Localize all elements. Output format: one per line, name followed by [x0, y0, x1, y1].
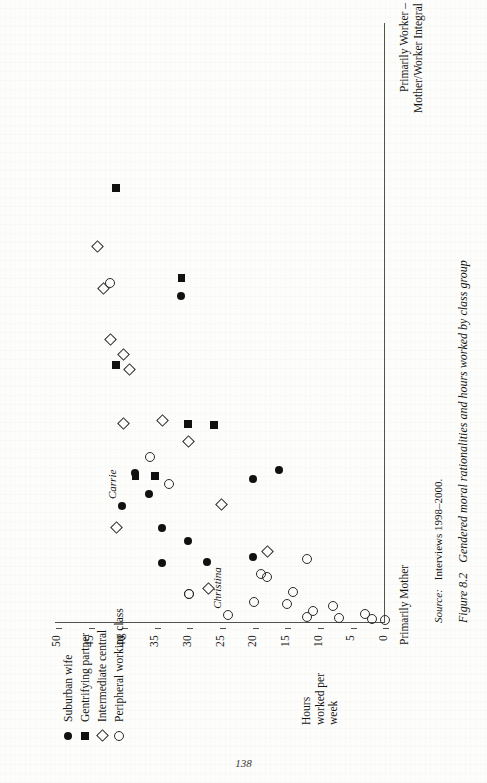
figure-caption: Figure 8.2Gendered moral rationalities a…	[456, 260, 471, 623]
y-axis-tick-label: 30	[181, 635, 193, 661]
y-axis-tick-label: 10	[312, 635, 324, 661]
source-label: Source:	[432, 589, 444, 623]
legend-item-peripheral: Peripheral working class	[111, 608, 127, 743]
legend-label: Gentrifying partner	[79, 633, 91, 722]
marker-gentrifying-partner	[132, 472, 140, 480]
marker-intermediate-central	[215, 499, 228, 512]
legend-label: Suburban wife	[62, 655, 74, 722]
legend-item-intermediate: Intermediate central	[94, 608, 110, 743]
marker-suburban-wife	[275, 466, 283, 474]
marker-intermediate-central-icon	[96, 730, 109, 743]
marker-suburban-wife	[249, 553, 257, 561]
y-axis-tick	[285, 628, 291, 629]
y-axis-tick	[383, 628, 389, 629]
y-axis-tick	[318, 628, 324, 629]
legend-item-gentrifying: Gentrifying partner	[77, 608, 93, 743]
marker-peripheral-working-class	[282, 599, 292, 609]
legend-swatch-open-diamond-icon	[98, 729, 107, 743]
figure-number: Figure 8.2	[456, 573, 470, 623]
y-axis-tick-label: 25	[214, 635, 226, 661]
source-line: Source:Interviews 1998–2000.	[432, 479, 444, 623]
marker-intermediate-central	[110, 521, 123, 534]
marker-intermediate-central	[91, 241, 104, 254]
y-axis-tick-label: 35	[148, 635, 160, 661]
y-axis-tick	[187, 628, 193, 629]
y-axis-tick	[351, 628, 357, 629]
marker-peripheral-working-class	[145, 452, 155, 462]
legend-swatch-open-circle-icon	[114, 729, 124, 743]
marker-peripheral-working-class	[367, 614, 377, 624]
marker-suburban-wife	[158, 524, 166, 532]
marker-suburban-wife	[145, 490, 153, 498]
y-axis-tick	[220, 628, 226, 629]
figure-rotated-frame: 50454035302520151050 Hours worked per we…	[0, 0, 487, 783]
marker-peripheral-working-class	[380, 615, 390, 625]
scanned-page: 50454035302520151050 Hours worked per we…	[0, 0, 487, 783]
y-axis-tick-label: 20	[246, 635, 258, 661]
x-axis-left-label: Primarily Mother	[398, 515, 412, 645]
figure-caption-text: Gendered moral rationalities and hours w…	[456, 260, 470, 562]
marker-suburban-wife	[249, 475, 257, 483]
marker-peripheral-working-class	[262, 572, 272, 582]
marker-gentrifying-partner-icon	[81, 732, 89, 740]
legend: Suburban wifeGentrifying partnerIntermed…	[60, 608, 128, 743]
marker-peripheral-working-class	[302, 612, 312, 622]
legend-swatch-filled-circle-icon	[64, 729, 72, 743]
x-axis-right-label: Primarily Worker – Mother/Worker Integra…	[398, 3, 425, 143]
page-number: 138	[0, 757, 487, 769]
marker-peripheral-working-class-icon	[114, 731, 124, 741]
marker-intermediate-central	[117, 418, 130, 431]
y-axis-tick	[253, 628, 259, 629]
marker-peripheral-working-class	[184, 589, 194, 599]
marker-gentrifying-partner	[112, 361, 120, 369]
marker-intermediate-central	[117, 349, 130, 362]
marker-suburban-wife-icon	[64, 732, 72, 740]
marker-gentrifying-partner	[112, 184, 120, 192]
marker-peripheral-working-class	[105, 278, 115, 288]
marker-suburban-wife	[184, 537, 192, 545]
scatter-plot: 50454035302520151050 Hours worked per we…	[0, 0, 487, 783]
marker-peripheral-working-class	[288, 587, 298, 597]
y-axis-tick	[155, 628, 161, 629]
point-label-christina: Christina	[211, 567, 223, 609]
legend-label: Peripheral working class	[113, 608, 125, 722]
marker-gentrifying-partner	[178, 274, 186, 282]
marker-suburban-wife	[203, 558, 211, 566]
y-axis-tick-label: 15	[279, 635, 291, 661]
marker-intermediate-central	[182, 436, 195, 449]
marker-intermediate-central	[104, 334, 117, 347]
marker-peripheral-working-class	[223, 610, 233, 620]
legend-swatch-filled-square-icon	[81, 729, 89, 743]
y-axis-title: Hours worked per week	[300, 663, 341, 725]
marker-gentrifying-partner	[184, 420, 192, 428]
marker-suburban-wife	[177, 292, 185, 300]
marker-gentrifying-partner	[210, 421, 218, 429]
point-label-carrie: Carrie	[106, 470, 118, 499]
legend-item-suburban: Suburban wife	[60, 608, 76, 743]
marker-peripheral-working-class	[302, 554, 312, 564]
marker-suburban-wife	[118, 502, 126, 510]
marker-suburban-wife	[158, 559, 166, 567]
marker-intermediate-central	[261, 545, 274, 558]
y-axis-tick-label: 0	[377, 635, 389, 661]
marker-peripheral-working-class	[334, 613, 344, 623]
y-axis-tick-label: 5	[344, 635, 356, 661]
source-value: Interviews 1998–2000.	[432, 479, 444, 580]
marker-intermediate-central	[124, 364, 137, 377]
marker-intermediate-central	[156, 415, 169, 428]
marker-gentrifying-partner	[151, 472, 159, 480]
marker-peripheral-working-class	[164, 479, 174, 489]
marker-peripheral-working-class	[328, 601, 338, 611]
legend-label: Intermediate central	[96, 630, 108, 722]
marker-peripheral-working-class	[249, 597, 259, 607]
x-axis-line	[384, 23, 385, 623]
